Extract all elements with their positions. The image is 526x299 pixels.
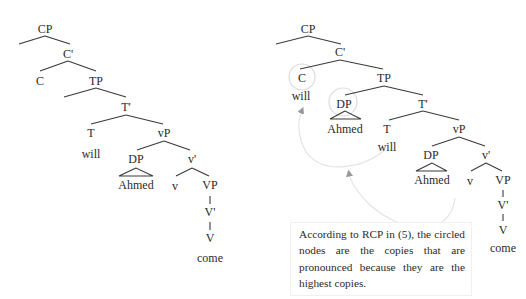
right-node-cp: CP <box>301 22 316 36</box>
right-word-c-will: will <box>292 89 311 103</box>
left-node-dp: DP <box>128 152 144 166</box>
right-node-cbar: C' <box>335 45 345 59</box>
right-word-ahmed-low: Ahmed <box>414 173 449 187</box>
right-node-dp-low: DP <box>423 148 439 162</box>
left-edge <box>192 168 209 176</box>
right-edge <box>423 111 459 120</box>
right-node-tbar: T' <box>418 97 428 111</box>
right-tree: CP C' C will TP DP Ahmed T' T will vP DP… <box>276 22 516 255</box>
right-edge <box>276 36 308 44</box>
left-word-ahmed: Ahmed <box>118 178 153 192</box>
right-edge <box>432 137 459 146</box>
left-node-t: T <box>87 126 95 140</box>
left-node-c: C <box>36 74 44 88</box>
left-node-tbar: T' <box>121 100 131 114</box>
right-edge <box>308 36 341 44</box>
right-word-t-will: will <box>378 140 397 154</box>
left-dp-triangle <box>119 168 153 176</box>
right-edge <box>384 86 423 95</box>
left-edge <box>45 36 70 44</box>
right-node-v-small: v <box>467 174 473 188</box>
left-edge <box>64 88 96 97</box>
right-node-v: V <box>499 223 508 237</box>
rcp-note-text: According to RCP in (5), the circled nod… <box>299 226 465 291</box>
left-node-vp-small: vP <box>158 126 171 140</box>
left-edge <box>176 168 192 176</box>
right-node-vp: VP <box>495 173 511 187</box>
right-edge <box>471 163 486 171</box>
left-node-v-small: v <box>172 179 178 193</box>
left-node-vp: VP <box>202 178 218 192</box>
left-node-tp: TP <box>89 74 103 88</box>
left-node-vbar: V' <box>205 205 216 219</box>
right-word-come: come <box>490 241 516 255</box>
right-edge <box>486 163 502 171</box>
left-node-cbar: C' <box>63 47 73 61</box>
left-edge <box>96 88 126 97</box>
left-edge <box>40 61 68 71</box>
left-edge <box>164 141 190 150</box>
left-tree: CP C' C TP T' T will vP DP Ahmed v' v <box>19 22 223 265</box>
right-node-vbar: V' <box>498 198 509 212</box>
right-node-c: C <box>298 71 306 85</box>
left-node-cp: CP <box>38 22 53 36</box>
right-edge <box>459 137 485 146</box>
left-node-vbar-small: v' <box>188 152 196 166</box>
right-node-t: T <box>383 122 391 136</box>
left-edge <box>19 36 45 44</box>
right-node-vp-small: vP <box>453 122 466 136</box>
left-edge <box>126 115 163 124</box>
left-word-will: will <box>82 147 101 161</box>
right-node-vbar-small: v' <box>482 148 490 162</box>
right-dp-low-triangle <box>416 163 447 171</box>
right-node-dp-high: DP <box>336 97 352 111</box>
left-edge <box>68 61 96 71</box>
left-edge <box>91 115 126 124</box>
left-edge <box>137 141 164 150</box>
left-node-v: V <box>206 231 215 245</box>
right-dp-high-triangle <box>330 111 361 119</box>
right-edge <box>340 60 383 69</box>
right-edge <box>389 111 423 120</box>
right-word-ahmed-high: Ahmed <box>327 122 362 136</box>
right-node-tp: TP <box>377 71 391 85</box>
left-word-come: come <box>197 251 223 265</box>
